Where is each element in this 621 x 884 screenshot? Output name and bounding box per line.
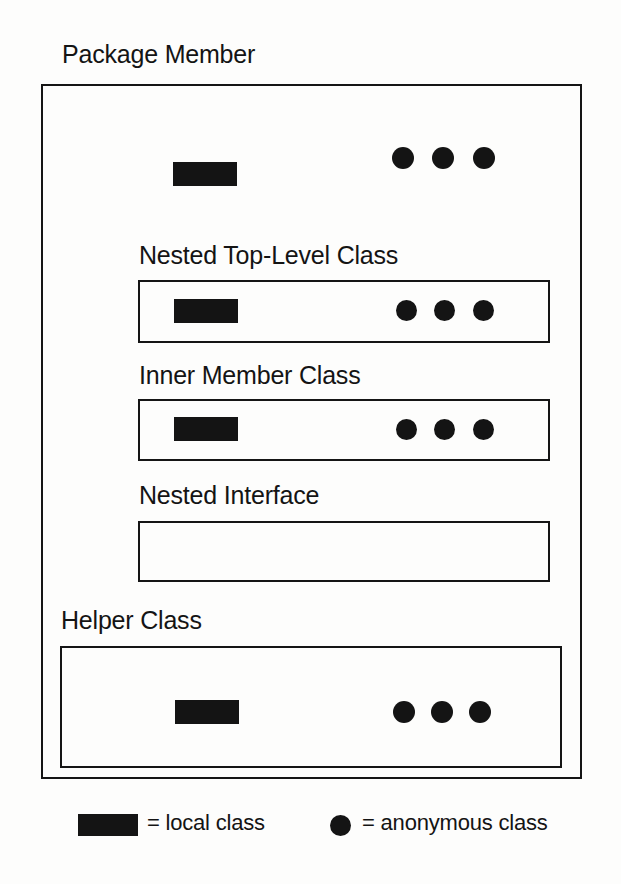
anonymous-class-marker bbox=[396, 419, 417, 440]
anonymous-class-marker bbox=[434, 419, 455, 440]
anonymous-class-marker bbox=[473, 419, 494, 440]
anonymous-class-marker bbox=[431, 701, 453, 723]
anonymous-class-marker bbox=[473, 300, 494, 321]
anonymous-class-marker bbox=[393, 701, 415, 723]
anonymous-class-marker bbox=[396, 300, 417, 321]
nested-interface-box bbox=[138, 521, 550, 582]
local-class-marker bbox=[175, 700, 239, 724]
anonymous-class-marker bbox=[434, 300, 455, 321]
package-member-title: Package Member bbox=[62, 42, 255, 67]
local-class-marker bbox=[173, 162, 237, 186]
local-class-marker bbox=[174, 417, 238, 441]
inner-member-class-title: Inner Member Class bbox=[139, 363, 360, 388]
anonymous-class-marker bbox=[469, 701, 491, 723]
nested-top-level-class-title: Nested Top-Level Class bbox=[139, 243, 398, 268]
legend-anonymous-class-swatch bbox=[330, 815, 351, 836]
legend-anonymous-class-label: = anonymous class bbox=[362, 812, 548, 834]
anonymous-class-marker bbox=[473, 147, 495, 169]
anonymous-class-marker bbox=[392, 147, 414, 169]
nested-interface-title: Nested Interface bbox=[139, 483, 319, 508]
legend-local-class-swatch bbox=[78, 814, 138, 836]
local-class-marker bbox=[174, 299, 238, 323]
legend-local-class-label: = local class bbox=[147, 812, 265, 834]
diagram-canvas: Package Member Nested Top-Level Class In… bbox=[0, 0, 621, 884]
helper-class-title: Helper Class bbox=[61, 608, 202, 633]
anonymous-class-marker bbox=[432, 147, 454, 169]
